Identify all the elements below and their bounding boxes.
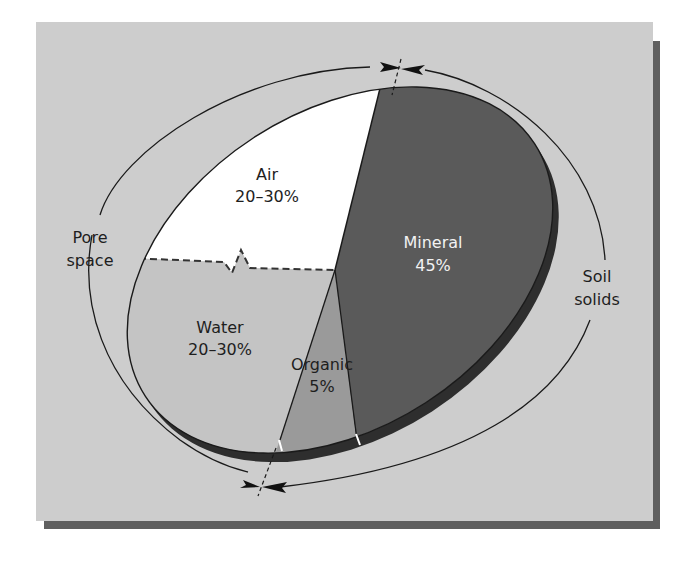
mineral-value: 45% xyxy=(415,256,451,275)
soil-composition-diagram: Air 20–30% Water 20–30% Organic 5% Miner… xyxy=(0,0,680,566)
soil-solids-label-line2: solids xyxy=(574,290,620,309)
organic-value: 5% xyxy=(309,377,334,396)
water-value: 20–30% xyxy=(188,340,252,359)
pore-space-label: Pore xyxy=(73,228,108,247)
air-label: Air xyxy=(256,165,278,184)
mineral-label: Mineral xyxy=(403,233,462,252)
pore-space-label-line2: space xyxy=(67,251,114,270)
organic-label: Organic xyxy=(291,355,353,374)
water-label: Water xyxy=(196,318,244,337)
soil-solids-label: Soil xyxy=(583,267,612,286)
air-value: 20–30% xyxy=(235,187,299,206)
